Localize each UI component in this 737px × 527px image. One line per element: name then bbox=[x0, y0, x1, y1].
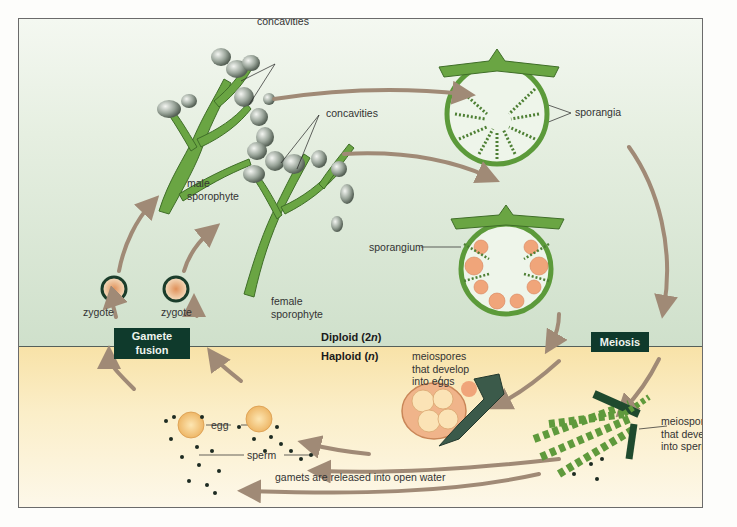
label-concavities-female: concavities bbox=[326, 107, 378, 120]
label-male-sporophyte: male sporophyte bbox=[187, 177, 239, 202]
label-zygote-left: zygote bbox=[83, 306, 114, 319]
label-meiospores-eggs: meiospores that develop into eggs bbox=[412, 350, 469, 388]
label-egg: egg bbox=[211, 419, 229, 432]
label-gametes-released: gamets are released into open water bbox=[275, 471, 445, 484]
label-zygote-right: zygote bbox=[161, 306, 192, 319]
label-meiospores-sperm: meiospores that develop into sperm bbox=[661, 415, 703, 453]
label-diploid: Diploid (2n) bbox=[321, 331, 382, 344]
label-concavities-male: concavities bbox=[257, 18, 309, 28]
zygote-right-illustration bbox=[164, 277, 188, 301]
diagram-artwork bbox=[19, 19, 703, 508]
label-sporangium: sporangium bbox=[369, 241, 424, 254]
gamete-fusion-box: Gamete fusion bbox=[114, 328, 190, 359]
label-sporangia: sporangia bbox=[575, 106, 621, 119]
label-sperm: sperm bbox=[247, 449, 276, 462]
meiosis-box: Meiosis bbox=[591, 332, 649, 352]
female-conceptacle-illustration bbox=[451, 205, 564, 314]
male-conceptacle-illustration bbox=[439, 49, 559, 164]
label-female-sporophyte: female sporophyte bbox=[271, 295, 323, 320]
life-cycle-diagram: concavities concavities male sporophyte … bbox=[18, 18, 703, 508]
zygote-left-illustration bbox=[102, 277, 126, 301]
female-sporophyte-illustration bbox=[243, 144, 354, 297]
label-haploid: Haploid (n) bbox=[321, 350, 378, 363]
sperm-gametangium-illustration bbox=[534, 394, 649, 474]
